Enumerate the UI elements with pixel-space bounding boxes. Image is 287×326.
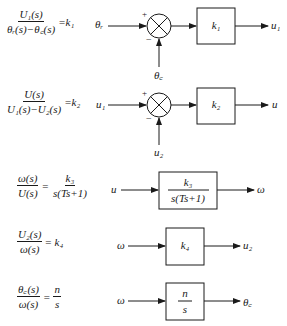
d2-block-gain: k₂ <box>197 98 235 110</box>
eq5-denominator: ω(s) <box>18 297 39 310</box>
eq3-denominator: U(s) <box>17 186 39 199</box>
d5-block-numerator: n <box>166 287 204 299</box>
eq1-numerator: U₁(s) <box>18 8 43 22</box>
d3-output-label: ω <box>257 183 265 195</box>
eq3-numerator: ω(s) <box>17 172 38 186</box>
d1-minus-sign: − <box>146 34 152 45</box>
d1-feedback-label: θ꜀ <box>154 67 163 82</box>
eq5-numerator: θ꜀(s) <box>17 283 40 297</box>
eq4-rhs: = k₄ <box>44 236 63 248</box>
eq1-denominator: θᵣ(s)−θ꜀(s) <box>6 22 56 35</box>
d4-output-label: u₂ <box>243 239 252 251</box>
d2-input-label: u₁ <box>96 98 105 110</box>
d3-block-numerator: k₃ <box>159 176 217 188</box>
eq3-rhs-numerator: k₃ <box>65 172 76 186</box>
d5-block-denominator: s <box>166 303 204 315</box>
d1-input-label: θᵣ <box>95 18 103 30</box>
d4-input-label: ω <box>117 239 125 251</box>
d2-feedback-label: u₂ <box>154 146 163 158</box>
d4-block-gain: k₄ <box>166 239 204 251</box>
equation-1: U₁(s)θᵣ(s)−θ꜀(s) =k₁ <box>6 8 74 35</box>
d3-block-denominator: s(Ts+1) <box>159 192 217 204</box>
eq3-rhs-denominator: s(Ts+1) <box>52 186 88 199</box>
eq2-denominator: U₁(s)−U₂(s) <box>6 102 62 115</box>
d5-input-label: ω <box>117 294 125 306</box>
d2-plus-sign: + <box>142 88 147 98</box>
d2-output-label: u <box>272 98 278 110</box>
block-diagram-graphics <box>0 0 287 326</box>
eq2-rhs: =k₂ <box>64 96 80 108</box>
equation-3: ω(s)U(s) = k₃s(Ts+1) <box>17 172 88 199</box>
d5-output-label: θ꜀ <box>243 294 252 309</box>
d1-block-gain: k₁ <box>197 19 235 31</box>
d1-output-label: u₁ <box>271 19 280 31</box>
d1-plus-sign: + <box>142 9 147 19</box>
eq1-rhs: =k₁ <box>58 16 74 28</box>
equation-2: U(s)U₁(s)−U₂(s) =k₂ <box>6 88 80 115</box>
eq5-rhs-numerator: n <box>53 283 61 297</box>
eq5-rhs-denominator: s <box>54 297 60 310</box>
eq4-numerator: U₂(s) <box>17 228 42 242</box>
eq4-denominator: ω(s) <box>19 242 40 255</box>
equation-4: U₂(s)ω(s) = k₄ <box>17 228 63 255</box>
d2-minus-sign: − <box>146 113 152 124</box>
d3-input-label: u <box>111 183 117 195</box>
equation-5: θ꜀(s)ω(s) = ns <box>17 283 61 310</box>
eq2-numerator: U(s) <box>23 88 45 102</box>
